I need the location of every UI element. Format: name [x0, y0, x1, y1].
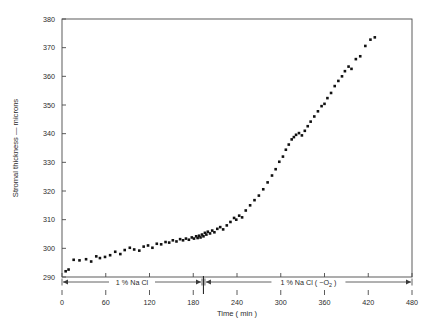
data-point [274, 168, 277, 171]
data-point [67, 268, 70, 271]
annotation-arrow-right [196, 280, 201, 285]
plot-frame [62, 19, 412, 277]
y-tick-label: 340 [43, 129, 55, 138]
x-tick-label: 480 [406, 298, 418, 307]
data-point [298, 132, 301, 135]
data-point [309, 120, 312, 123]
data-point [109, 254, 112, 257]
data-point [258, 194, 261, 197]
data-point [287, 143, 290, 146]
data-point [138, 249, 141, 252]
data-point [253, 199, 256, 202]
data-point [185, 237, 188, 240]
data-point [290, 138, 293, 141]
data-point [205, 233, 208, 236]
data-point [64, 270, 67, 273]
data-point [350, 68, 353, 71]
data-point [341, 75, 344, 78]
x-tick-label: 300 [275, 298, 287, 307]
data-point [202, 235, 205, 238]
x-axis: 060120180240300360420480 [60, 273, 418, 307]
data-point [104, 256, 107, 259]
data-point [99, 257, 102, 260]
data-point [175, 240, 178, 243]
data-point [133, 248, 136, 251]
data-point [168, 241, 171, 244]
x-tick-label: 360 [319, 298, 331, 307]
data-point [262, 188, 265, 191]
data-point [313, 115, 316, 118]
data-point [142, 245, 145, 248]
data-point [78, 259, 81, 262]
data-point [147, 244, 150, 247]
data-point [72, 259, 75, 262]
data-point [85, 258, 88, 261]
annotation-arrow-left [63, 280, 68, 285]
data-point [90, 260, 93, 263]
data-point [337, 80, 340, 83]
y-tick-label: 290 [43, 273, 55, 282]
data-point [213, 231, 216, 234]
data-point [160, 243, 163, 246]
x-tick-label: 60 [102, 298, 110, 307]
data-point [151, 246, 154, 249]
annotation-arrow-right [406, 280, 411, 285]
y-tick-label: 370 [43, 43, 55, 52]
data-point [282, 155, 285, 158]
data-point [241, 216, 244, 219]
x-tick-label: 420 [362, 298, 374, 307]
data-point [179, 238, 182, 241]
data-point [172, 239, 175, 242]
y-tick-label: 300 [43, 244, 55, 253]
data-point [374, 36, 377, 39]
data-point [199, 236, 202, 239]
data-point [129, 246, 132, 249]
data-point [95, 255, 98, 258]
data-point [317, 110, 320, 113]
data-point [320, 105, 323, 108]
data-point [244, 209, 247, 212]
x-tick-label: 240 [231, 298, 243, 307]
data-point [196, 237, 199, 240]
y-tick-label: 360 [43, 72, 55, 81]
y-axis-title: Stromal thickness — microns [11, 99, 20, 198]
x-axis-title: Time ( min ) [217, 309, 258, 318]
data-point [114, 250, 117, 253]
chart-figure: 290300310320330340350360370380 060120180… [0, 0, 427, 332]
data-point [235, 218, 238, 221]
x-tick-label: 120 [144, 298, 156, 307]
data-point [193, 237, 196, 240]
data-point [238, 214, 241, 217]
data-point [293, 136, 296, 139]
data-point [333, 85, 336, 88]
x-tick-label: 180 [187, 298, 199, 307]
annotation-arrow-left [206, 280, 211, 285]
data-point [326, 97, 329, 100]
data-point [285, 148, 288, 151]
data-point [209, 232, 212, 235]
data-point [222, 228, 225, 231]
data-point [249, 204, 252, 207]
data-point [164, 241, 167, 244]
y-tick-label: 310 [43, 215, 55, 224]
data-point [155, 242, 158, 245]
y-tick-label: 320 [43, 187, 55, 196]
annotation-label: 1 % Na Cl [116, 278, 149, 287]
data-point [266, 181, 269, 184]
data-point [355, 58, 358, 61]
data-point [188, 238, 191, 241]
data-point [119, 253, 122, 256]
data-point [295, 134, 298, 137]
data-point [278, 160, 281, 163]
data-points-group [64, 36, 376, 273]
data-point [123, 249, 126, 252]
data-point [359, 55, 362, 58]
y-tick-label: 380 [43, 15, 55, 24]
x-tick-label: 0 [60, 298, 64, 307]
data-point [323, 103, 326, 106]
annotation-label: 1 % Na Cl ( −O2 ) [280, 278, 336, 288]
data-point [225, 224, 228, 227]
data-point [364, 45, 367, 48]
data-point [369, 38, 372, 41]
data-point [271, 174, 274, 177]
